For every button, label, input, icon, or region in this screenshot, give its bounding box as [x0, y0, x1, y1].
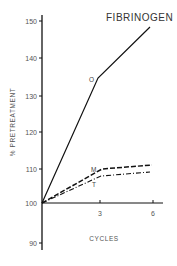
series-o-line	[42, 27, 150, 203]
y-tick-120: 120	[25, 129, 37, 136]
y-tick-140: 140	[25, 55, 37, 62]
y-axis-label: % PRETREATMENT	[9, 88, 16, 157]
chart-title: FIBRINOGEN	[106, 12, 173, 23]
y-tick-100: 100	[25, 200, 37, 207]
series-m-label: M	[91, 166, 96, 173]
series-t-label: T	[92, 181, 96, 188]
y-tick-90: 90	[29, 240, 37, 247]
y-tick-150: 150	[25, 18, 37, 25]
y-tick-110: 110	[26, 166, 37, 173]
series-t-line	[42, 172, 150, 203]
y-tick-130: 130	[25, 93, 37, 100]
series-m-line	[42, 165, 152, 203]
y-ticks: 150 140 130 120 110 100 90	[25, 18, 42, 247]
x-tick-3: 3	[98, 210, 102, 217]
x-tick-6: 6	[151, 210, 155, 217]
series-o-label: O	[89, 76, 94, 83]
x-axis-label: CYCLES	[89, 235, 119, 242]
fibrinogen-chart: FIBRINOGEN 150 140 130 120 110 100 90 3 …	[0, 0, 177, 266]
